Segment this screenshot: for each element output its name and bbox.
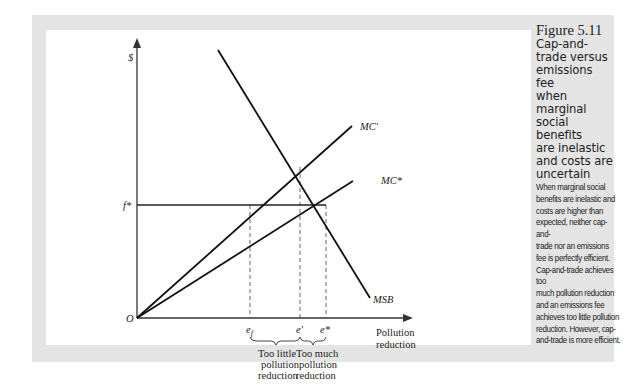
figure-body-line: fee is perfectly efficient. — [536, 253, 621, 265]
x-axis-label-line-1: Pollution — [376, 327, 415, 338]
brace-too-much-icon — [300, 337, 326, 345]
tick-e-star: e* — [320, 324, 331, 335]
msb-curve — [218, 50, 370, 298]
mc-prime-curve — [137, 126, 352, 318]
figure-body-line: and-trade is more efficient. — [536, 335, 621, 347]
figure-title-line: when marginal — [536, 90, 614, 116]
too-little-line-3: reduction — [258, 370, 298, 381]
figure-body-line: expected, neither cap-and- — [536, 217, 621, 241]
too-much-line-3: reduction — [296, 370, 336, 381]
figure-title: Cap-and- trade versus emissions fee when… — [536, 38, 614, 181]
figure-body-line: costs are higher than — [536, 206, 621, 218]
fee-label: f* — [123, 200, 132, 211]
figure-caption: Figure 5.11 Cap-and- trade versus emissi… — [536, 22, 614, 347]
figure-body-line: Cap-and-trade achieves too — [536, 265, 621, 289]
mc-star-label: MC* — [380, 175, 403, 186]
figure-body-line: When marginal social — [536, 182, 621, 194]
figure-title-line: uncertain — [536, 168, 614, 181]
figure-body-line: achieves too little pollution — [536, 312, 621, 324]
figure-number: Figure 5.11 — [536, 22, 614, 38]
too-little-line-1: Too little — [258, 348, 296, 359]
mc-prime-label: MC′ — [359, 121, 379, 132]
y-axis-label: $ — [128, 52, 134, 63]
too-much-line-2: pollution — [299, 359, 338, 370]
figure-body-line: trade nor an emissions — [536, 241, 621, 253]
tick-e-f: ef — [246, 324, 255, 338]
y-axis-arrow-icon — [133, 38, 141, 48]
too-much-line-1: Too much — [296, 348, 339, 359]
figure-body-line: reduction. However, cap- — [536, 324, 621, 336]
origin-label: O — [126, 313, 134, 324]
msb-label: MSB — [372, 294, 394, 305]
brace-too-little-icon — [250, 337, 300, 345]
tick-e-prime: e′ — [296, 324, 304, 335]
figure-title-line: emissions fee — [536, 64, 614, 90]
figure-body-line: and an emissions fee — [536, 300, 621, 312]
figure-body-line: benefits are inelastic and — [536, 194, 621, 206]
figure-title-line: social benefits — [536, 116, 614, 142]
figure-description: When marginal social benefits are inelas… — [536, 182, 621, 347]
x-axis-label-line-2: reduction — [376, 339, 416, 350]
mc-star-curve — [137, 181, 353, 318]
too-little-line-2: pollution — [261, 359, 300, 370]
figure-body-line: much pollution reduction — [536, 288, 621, 300]
x-axis-arrow-icon — [403, 314, 413, 322]
